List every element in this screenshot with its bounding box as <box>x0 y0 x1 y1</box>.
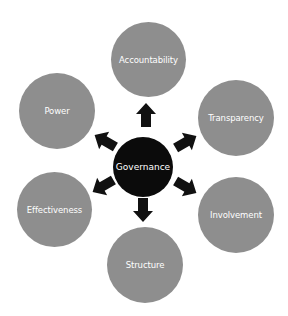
center-node-governance: Governance <box>113 137 173 197</box>
node-label: Power <box>44 106 69 116</box>
node-label: Accountability <box>119 55 178 65</box>
arrow-upper-right-icon <box>171 127 202 156</box>
node-involvement: Involvement <box>198 177 274 253</box>
node-structure: Structure <box>107 227 183 303</box>
arrow-up-icon <box>136 103 156 127</box>
node-accountability: Accountability <box>111 22 186 97</box>
governance-diagram: Governance Accountability Transparency I… <box>0 0 288 316</box>
arrow-down-icon <box>133 198 153 222</box>
arrow-lower-right-icon <box>171 172 202 201</box>
node-effectiveness: Effectiveness <box>17 172 92 247</box>
node-label: Transparency <box>208 113 264 123</box>
node-label: Involvement <box>210 210 262 220</box>
node-label: Effectiveness <box>27 205 82 215</box>
node-label: Structure <box>126 260 165 270</box>
node-power: Power <box>19 73 95 149</box>
node-transparency: Transparency <box>198 80 274 156</box>
arrow-upper-left-icon <box>90 126 121 155</box>
center-node-label: Governance <box>116 162 170 172</box>
